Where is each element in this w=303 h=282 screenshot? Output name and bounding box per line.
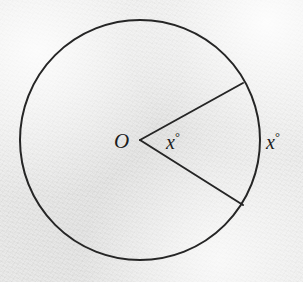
central-angle-label: x°	[166, 131, 180, 152]
upper-radius-line	[140, 83, 243, 140]
geometry-figure: O x° x°	[0, 0, 303, 282]
arc-measure-value: x	[266, 131, 275, 153]
arc-measure-label: x°	[266, 131, 280, 152]
degree-icon: °	[175, 130, 180, 144]
circle-diagram-canvas	[0, 0, 303, 282]
center-point-label: O	[114, 131, 129, 152]
lower-radius-line	[140, 140, 243, 205]
central-angle-value: x	[166, 131, 175, 153]
degree-icon: °	[275, 130, 280, 144]
